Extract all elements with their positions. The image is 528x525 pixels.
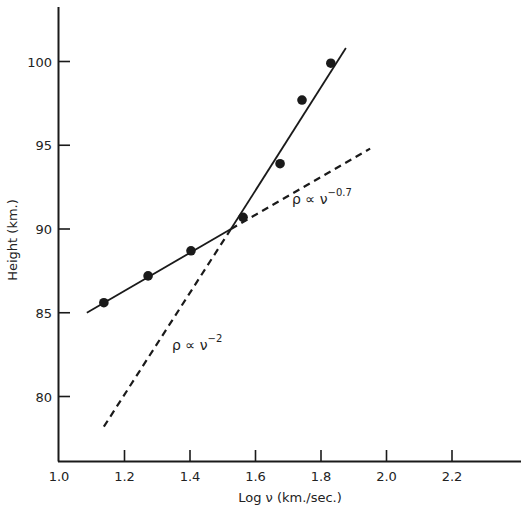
annotation-rho-v-2: ρ ∝ ν−2 bbox=[172, 333, 222, 353]
series-lines bbox=[87, 48, 370, 427]
annotation-upper-base: ρ ∝ ν bbox=[292, 191, 328, 207]
y-tick-label: 85 bbox=[35, 306, 52, 321]
series-line-fit-upper bbox=[231, 48, 346, 229]
data-point bbox=[326, 58, 336, 68]
y-tick-label: 80 bbox=[35, 390, 52, 405]
x-tick-label: 1.4 bbox=[180, 469, 201, 484]
data-point bbox=[143, 271, 153, 281]
y-tick-label: 100 bbox=[27, 55, 52, 70]
x-tick-label: 2.0 bbox=[376, 469, 397, 484]
data-point bbox=[238, 212, 248, 222]
data-point bbox=[186, 246, 196, 256]
x-axis-label: Log ν (km./sec.) bbox=[238, 490, 342, 505]
annotation-rho-v-0.7: ρ ∝ ν−0.7 bbox=[292, 187, 352, 207]
annotation-upper-sup: −0.7 bbox=[328, 187, 352, 198]
x-tick-label: 1.0 bbox=[49, 469, 70, 484]
chart-canvas: 80859095100 1.01.21.41.61.82.02.2 ρ ∝ ν−… bbox=[0, 0, 528, 525]
y-tick-label: 95 bbox=[35, 138, 52, 153]
data-points bbox=[99, 58, 336, 307]
axes bbox=[58, 7, 521, 462]
x-tick-label: 2.2 bbox=[442, 469, 463, 484]
data-point bbox=[275, 159, 285, 169]
series-line--2 bbox=[104, 229, 231, 427]
x-tick-label: 1.6 bbox=[245, 469, 266, 484]
series-line-fit-lower bbox=[87, 229, 231, 313]
data-point bbox=[297, 95, 307, 105]
y-ticks: 80859095100 bbox=[27, 55, 70, 405]
x-ticks: 1.01.21.41.61.82.02.2 bbox=[49, 450, 463, 484]
annotation-lower-base: ρ ∝ ν bbox=[172, 337, 208, 353]
x-tick-label: 1.2 bbox=[114, 469, 135, 484]
x-tick-label: 1.8 bbox=[311, 469, 332, 484]
data-point bbox=[99, 298, 109, 308]
annotation-lower-sup: −2 bbox=[208, 333, 223, 344]
y-tick-label: 90 bbox=[35, 222, 52, 237]
y-axis-label: Height (km.) bbox=[5, 199, 20, 281]
